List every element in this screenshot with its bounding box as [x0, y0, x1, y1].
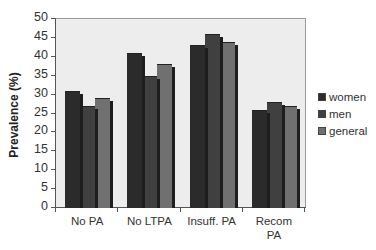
y-tick-label: 20: [20, 124, 48, 137]
y-tick-label: 40: [20, 49, 48, 62]
y-tick-label: 10: [20, 162, 48, 175]
y-tick-mark: [51, 150, 56, 151]
legend-label: women: [329, 91, 366, 103]
bar-women: [127, 53, 145, 208]
x-tick-mark: [117, 207, 118, 212]
y-tick-label: 5: [20, 181, 48, 194]
y-tick-label: 50: [20, 11, 48, 24]
legend-swatch: [318, 93, 326, 101]
y-tick-mark: [51, 188, 56, 189]
y-tick-label: 35: [20, 68, 48, 81]
plot-area: [56, 18, 306, 208]
legend-label: general: [329, 125, 367, 137]
x-tick-mark: [55, 207, 56, 212]
legend-label: men: [329, 108, 351, 120]
y-tick-label: 45: [20, 30, 48, 43]
x-tick-label: Recom PA: [238, 214, 310, 242]
legend-swatch: [318, 110, 326, 118]
y-tick-label: 30: [20, 87, 48, 100]
bar-women: [252, 110, 270, 208]
y-tick-label: 15: [20, 143, 48, 156]
bar-women: [190, 45, 208, 208]
legend-swatch: [318, 127, 326, 135]
x-tick-label: No LTPA: [113, 214, 185, 228]
x-tick-label: No PA: [51, 214, 123, 228]
y-tick-mark: [51, 56, 56, 57]
y-tick-mark: [51, 94, 56, 95]
y-tick-label: 25: [20, 106, 48, 119]
y-tick-mark: [51, 37, 56, 38]
y-tick-mark: [51, 169, 56, 170]
bar-women: [65, 91, 83, 208]
x-tick-mark: [304, 207, 305, 212]
legend-item-women: women: [318, 88, 367, 105]
legend-item-general: general: [318, 122, 367, 139]
y-tick-mark: [51, 113, 56, 114]
y-tick-mark: [51, 18, 56, 19]
legend: womenmengeneral: [318, 88, 367, 139]
x-tick-label: Insuff. PA: [176, 214, 248, 228]
legend-item-men: men: [318, 105, 367, 122]
x-tick-mark: [242, 207, 243, 212]
y-tick-mark: [51, 131, 56, 132]
x-tick-mark: [180, 207, 181, 212]
y-tick-label: 0: [20, 200, 48, 213]
y-tick-mark: [51, 75, 56, 76]
